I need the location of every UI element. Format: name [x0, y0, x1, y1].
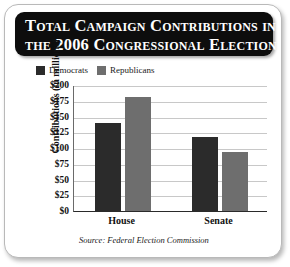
y-axis-tick-label: $150 — [35, 112, 69, 122]
y-axis-tick-label: $25 — [35, 190, 69, 200]
x-axis-tick-label-senate: Senate — [170, 215, 267, 226]
y-axis-tick-label: $50 — [35, 175, 69, 185]
y-axis-tick-label: $0 — [35, 206, 69, 216]
bar-senate-democrats — [192, 137, 218, 211]
gridline — [74, 118, 267, 119]
chart-figure: Total Campaign Contributions in the 2006… — [4, 4, 282, 258]
x-axis-tick-label-house: House — [73, 215, 170, 226]
y-axis-tick-label: $100 — [35, 143, 69, 153]
plot-area — [73, 86, 267, 212]
bar-senate-republicans — [222, 152, 248, 211]
y-axis-tick-labels: $0$25$50$75$100$125$150$175$200 — [33, 86, 69, 212]
legend-swatch-democrats — [36, 66, 45, 75]
gridline — [74, 86, 267, 87]
page-title-line-2: the 2006 Congressional Election — [25, 35, 264, 54]
y-axis-tick-label: $75 — [35, 159, 69, 169]
page-title-line-1: Total Campaign Contributions in — [25, 16, 264, 35]
legend-item-republicans: Republicans — [97, 65, 155, 75]
y-axis-tick-label: $200 — [35, 80, 69, 90]
legend-label-republicans: Republicans — [110, 65, 155, 75]
y-axis-tick-label: $125 — [35, 127, 69, 137]
bar-house-republicans — [125, 97, 151, 211]
gridline — [74, 102, 267, 103]
source-note: Source: Federal Election Commission — [5, 235, 282, 245]
y-axis-tick-label: $175 — [35, 96, 69, 106]
bar-house-democrats — [95, 123, 121, 211]
legend-swatch-republicans — [97, 66, 106, 75]
legend-item-democrats: Democrats — [36, 65, 88, 75]
